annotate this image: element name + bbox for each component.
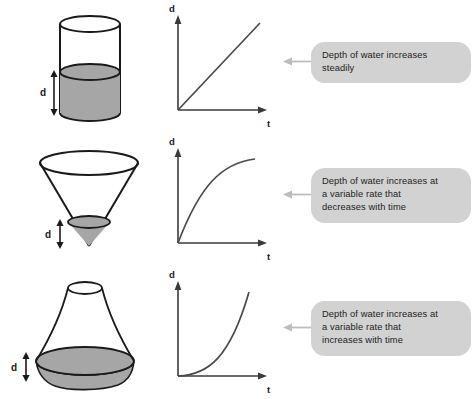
vessel-cylinder: d — [0, 0, 150, 133]
callout-cylinder: Depth of water increases steadily — [311, 42, 471, 83]
cone-water-surface — [68, 216, 110, 228]
x-axis-label: t — [267, 118, 271, 129]
callout-vase: Depth of water increases at a variable r… — [311, 301, 471, 356]
chart-vase-svg: d t — [150, 266, 295, 399]
cylinder-illustration: d — [0, 0, 150, 133]
y-axis-label: d — [169, 269, 175, 280]
callout-line: Depth of water increases at — [322, 175, 460, 188]
vessel-inverted-cone: d — [0, 133, 150, 266]
callout-line: Depth of water increases at — [322, 308, 460, 321]
vase-top-rim — [68, 282, 102, 294]
y-axis-arrowhead — [175, 281, 182, 290]
callout-pointer-arrow-1 — [283, 56, 313, 67]
callout-cell-3: Depth of water increases at a variable r… — [283, 266, 475, 399]
callout-line: a variable rate that — [322, 188, 460, 201]
diagram-row-vase: d d t Depth of water increases at a vari… — [0, 266, 475, 399]
y-axis-arrowhead — [175, 15, 182, 24]
y-axis-label: d — [169, 3, 175, 14]
callout-line: decreases with time — [322, 201, 460, 214]
cylinder-depth-arrow — [50, 70, 57, 116]
vase-depth-label: d — [11, 362, 17, 373]
cone-depth-label: d — [45, 229, 51, 240]
callout-line: a variable rate that — [322, 321, 460, 334]
callout-line: steadily — [322, 62, 460, 75]
cylinder-water-surface — [60, 64, 120, 80]
depth-time-curve — [178, 23, 260, 110]
chart-cylinder: d t — [150, 0, 295, 133]
y-axis-arrowhead — [175, 148, 182, 157]
cylinder-depth-label: d — [40, 87, 46, 98]
x-axis-arrowhead — [258, 107, 267, 114]
y-axis-label: d — [169, 136, 175, 147]
x-axis-label: t — [267, 384, 271, 395]
diagram-row-cylinder: d d t Depth of water increases steadily — [0, 0, 475, 133]
cone-illustration: d — [0, 133, 150, 266]
callout-line: increases with time — [322, 334, 460, 347]
diagram-row-cone: d d t Depth of water increases at a vari… — [0, 133, 475, 266]
chart-vase: d t — [150, 266, 295, 399]
vase-water-surface — [36, 347, 134, 375]
callout-cell-2: Depth of water increases at a variable r… — [283, 133, 475, 266]
cone-top-rim — [40, 151, 138, 175]
x-axis-arrowhead — [258, 240, 267, 247]
depth-time-curve — [178, 159, 255, 243]
vase-depth-arrow — [22, 352, 29, 382]
callout-cell-1: Depth of water increases steadily — [283, 0, 475, 133]
chart-cylinder-svg: d t — [150, 0, 295, 133]
x-axis-label: t — [267, 251, 271, 262]
chart-cone: d t — [150, 133, 295, 266]
callout-pointer-arrow-2 — [283, 189, 313, 200]
vessel-flared-vase: d — [0, 266, 150, 399]
cone-depth-arrow — [56, 219, 63, 249]
cylinder-top-rim — [60, 16, 120, 32]
vase-illustration: d — [0, 266, 150, 399]
callout-line: Depth of water increases — [322, 49, 460, 62]
depth-time-curve — [178, 292, 249, 376]
callout-cone: Depth of water increases at a variable r… — [311, 168, 471, 223]
x-axis-arrowhead — [258, 373, 267, 380]
callout-pointer-arrow-3 — [283, 322, 313, 333]
chart-cone-svg: d t — [150, 133, 295, 266]
